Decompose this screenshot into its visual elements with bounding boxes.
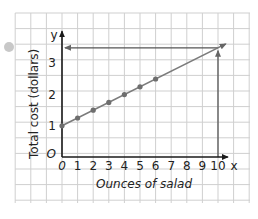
x-tick-label: 0: [58, 159, 66, 173]
data-point: [137, 84, 142, 89]
y-tick-label: 1: [48, 119, 56, 133]
x-axis-title: Ounces of salad: [96, 177, 192, 191]
data-point: [91, 108, 96, 113]
origin-label: O: [47, 147, 56, 161]
data-point: [75, 115, 80, 120]
line-chart: 012345678910123OxyOunces of saladTotal c…: [0, 0, 258, 219]
x-tick-label: 8: [183, 159, 191, 173]
x-tick-label: 3: [105, 159, 113, 173]
x-tick-label: 5: [136, 159, 144, 173]
x-tick-label: 6: [152, 159, 160, 173]
x-tick-label: 10: [210, 159, 225, 173]
y-axis-title: Total cost (dollars): [27, 49, 41, 160]
y-tick-label: 3: [48, 56, 56, 70]
x-tick-label: 1: [74, 159, 82, 173]
y-tick-label: 2: [48, 88, 56, 102]
data-point: [106, 100, 111, 105]
guide-arrows: [65, 48, 218, 157]
data-point: [153, 76, 158, 81]
data-point: [59, 123, 64, 128]
data-point: [122, 92, 127, 97]
tick-labels: 012345678910123OxyOunces of saladTotal c…: [27, 28, 238, 191]
data-series: [59, 44, 225, 129]
x-tick-label: 9: [199, 159, 207, 173]
x-tick-label: 2: [89, 159, 97, 173]
x-tick-label: 4: [121, 159, 129, 173]
cost-line: [62, 44, 226, 126]
y-axis-letter: y: [50, 28, 57, 42]
x-tick-label: 7: [167, 159, 175, 173]
x-axis-letter: x: [230, 159, 237, 173]
